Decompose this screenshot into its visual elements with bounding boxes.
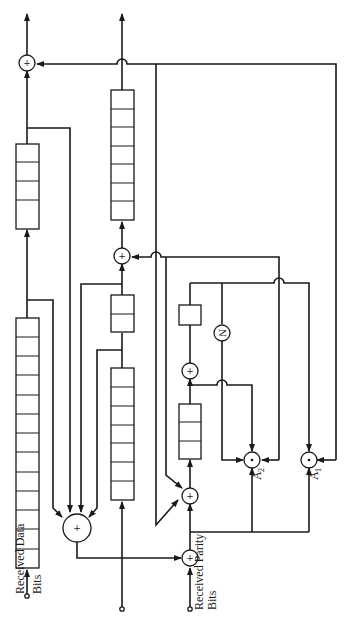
xor-parity-delay: + xyxy=(182,363,198,379)
parity-register xyxy=(179,404,201,459)
label-received-parity: Received Parity Bits xyxy=(192,534,219,610)
middle-register-input xyxy=(111,368,134,500)
a1-feedback-line xyxy=(37,59,336,460)
svg-text:Bits: Bits xyxy=(30,574,44,594)
middle-register-mid xyxy=(111,295,134,332)
svg-text:1: 1 xyxy=(314,468,323,472)
svg-text:+: + xyxy=(186,366,194,376)
svg-text:Received Data: Received Data xyxy=(13,523,27,594)
xor-data-output: + xyxy=(19,55,35,71)
parity-delay xyxy=(179,305,201,325)
middle-register-output xyxy=(111,90,134,220)
svg-text:+: + xyxy=(118,251,126,261)
svg-text:N: N xyxy=(217,329,227,337)
xor-syndrome-big: + xyxy=(63,514,91,542)
data-register-output xyxy=(16,144,39,229)
svg-text:Bits: Bits xyxy=(205,590,219,610)
svg-text:Received Parity: Received Parity xyxy=(192,534,206,610)
svg-text:+: + xyxy=(186,491,194,501)
input-middle-terminal xyxy=(120,607,124,611)
data-path: + xyxy=(16,14,70,598)
xor-middle-output: + xyxy=(114,248,130,264)
decoder-diagram: + + xyxy=(0,0,348,629)
xor-parity-feedback: + xyxy=(182,488,198,504)
and-a2 xyxy=(244,452,260,468)
svg-text:2: 2 xyxy=(257,468,266,472)
svg-text:+: + xyxy=(23,58,31,68)
svg-text:+: + xyxy=(73,523,81,533)
inverter-n: N xyxy=(214,325,230,341)
and-a1 xyxy=(301,452,317,468)
